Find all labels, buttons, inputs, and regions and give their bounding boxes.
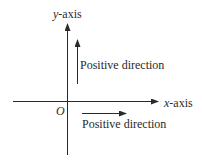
origin-label: O [56,105,65,117]
coordinate-diagram: y-axis x-axis O Positive direction Posit… [0,0,202,161]
axes-graphic [0,0,202,161]
positive-direction-y-label: Positive direction [80,59,164,71]
y-axis-label: y-axis [53,8,82,20]
x-axis-suffix: -axis [169,96,192,110]
y-axis-suffix: -axis [58,7,81,21]
positive-direction-x-label: Positive direction [82,118,166,130]
x-axis-label: x-axis [164,97,193,109]
